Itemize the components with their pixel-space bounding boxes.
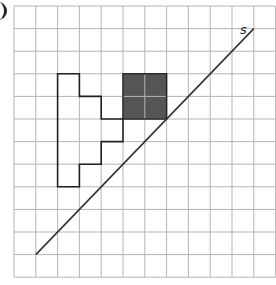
mirror-line-label: s <box>240 22 247 37</box>
outline-shape <box>58 74 123 187</box>
reflection-grid-diagram <box>0 0 276 285</box>
